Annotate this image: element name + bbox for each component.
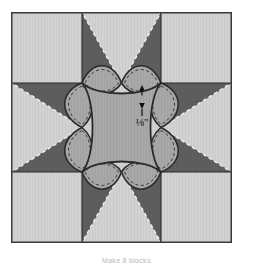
- quilt-block-diagram: ⅛": [11, 12, 232, 243]
- measurement-label: ⅛": [136, 116, 149, 128]
- figure-caption: Make 8 blocks.: [0, 256, 255, 265]
- quilt-block-svg: ⅛": [11, 12, 232, 243]
- fabric-texture-overlay: [11, 12, 232, 243]
- diagram-page: ⅛" Make 8 blocks.: [0, 0, 255, 269]
